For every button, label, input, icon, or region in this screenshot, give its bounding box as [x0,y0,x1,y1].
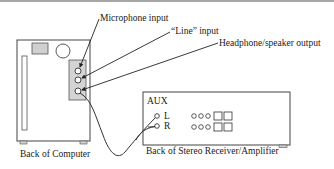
back-of-receiver-caption: Back of Stereo Receiver/Amplifier [146,147,279,157]
top-border [0,0,334,2]
headphone-output-label: Headphone/speaker output [219,39,321,49]
aux-left-jack-icon [155,114,160,119]
line-in-leader-line [82,32,170,78]
aux-right-jack-icon [155,124,160,129]
drive-bay-icon [32,43,48,54]
computer-foot-right [80,141,87,144]
right-channel-label: R [164,122,170,132]
back-of-computer-caption: Back of Computer [20,150,90,160]
expansion-slot-icon [22,56,27,130]
microphone-jack-icon [75,68,81,74]
headphone-leader-line [82,43,218,90]
computer-foot-left [20,141,27,144]
line-input-label: “Line” input [171,27,219,37]
fan-icon [56,44,70,58]
line-in-jack-icon [75,77,81,83]
microphone-input-label: Microphone input [100,14,168,24]
audio-connection-diagram [0,0,334,169]
computer-case [17,40,90,144]
aux-label: AUX [147,97,168,107]
receiver-foot [279,145,287,148]
